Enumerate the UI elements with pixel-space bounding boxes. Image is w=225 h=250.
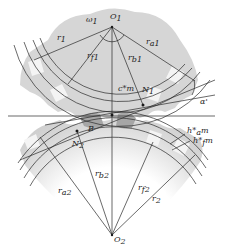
gear1-body <box>20 8 198 118</box>
point-o1 <box>111 26 113 28</box>
point-n1 <box>142 104 145 107</box>
label-o2: O2 <box>114 235 126 246</box>
gear-mesh-diagram: ω1 O1 r1 rf1 rb1 ra1 c*m N1 α' B N2 h*am… <box>0 0 225 250</box>
point-pitch <box>111 114 114 117</box>
label-alpha: α' <box>200 97 208 106</box>
label-b: B <box>87 124 94 133</box>
label-cm: c*m <box>118 84 134 93</box>
point-n2 <box>76 130 79 133</box>
point-o2 <box>111 234 113 236</box>
